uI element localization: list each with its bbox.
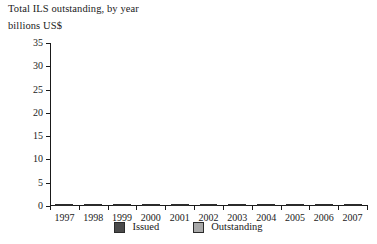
bar-segment-issued[interactable]	[315, 205, 333, 206]
bar-stack[interactable]	[142, 204, 160, 206]
bar-stack[interactable]	[344, 204, 362, 206]
y-axis-label: 0	[38, 201, 43, 211]
legend-label: Outstanding	[211, 222, 262, 233]
legend-label: Issued	[132, 222, 159, 233]
plot-area: 05101520253035 1997199819992000200120022…	[50, 43, 367, 206]
y-axis-label: 30	[33, 61, 43, 71]
bar-segment-issued[interactable]	[228, 205, 246, 206]
legend-item-issued[interactable]: Issued	[114, 222, 159, 233]
bar-segment-issued[interactable]	[84, 205, 102, 206]
bar-segment-issued[interactable]	[142, 205, 160, 206]
y-axis-label: 25	[33, 85, 43, 95]
y-axis-label: 5	[38, 178, 43, 188]
chart-title: Total ILS outstanding, by year	[8, 3, 139, 14]
bar-segment-issued[interactable]	[171, 205, 189, 206]
bar-stack[interactable]	[113, 204, 131, 206]
bar-stack[interactable]	[84, 204, 102, 206]
y-axis-label: 10	[33, 154, 43, 164]
bar-stack[interactable]	[55, 204, 73, 206]
bar-stack[interactable]	[200, 204, 218, 206]
bar-segment-issued[interactable]	[344, 205, 362, 206]
chart-container: Total ILS outstanding, by year billions …	[0, 0, 377, 244]
x-axis-tick	[367, 205, 368, 210]
bar-segment-issued[interactable]	[257, 205, 275, 206]
y-axis-label: 15	[33, 131, 43, 141]
legend-item-outstanding[interactable]: Outstanding	[193, 222, 262, 233]
bar-stack[interactable]	[286, 204, 304, 206]
bar-segment-issued[interactable]	[286, 205, 304, 206]
bar-stack[interactable]	[171, 204, 189, 206]
y-axis-label: 35	[33, 38, 43, 48]
bar-segment-issued[interactable]	[55, 205, 73, 206]
chart-legend: IssuedOutstanding	[0, 222, 377, 233]
chart-subtitle: billions US$	[8, 20, 62, 31]
legend-swatch-issued-icon	[114, 222, 125, 233]
legend-swatch-outstanding-icon	[193, 222, 204, 233]
bar-stack[interactable]	[315, 204, 333, 206]
bar-series-group	[50, 43, 367, 206]
bar-stack[interactable]	[228, 204, 246, 206]
y-axis-label: 20	[33, 108, 43, 118]
bar-stack[interactable]	[257, 204, 275, 206]
bar-segment-issued[interactable]	[113, 205, 131, 206]
bar-segment-issued[interactable]	[200, 205, 218, 206]
